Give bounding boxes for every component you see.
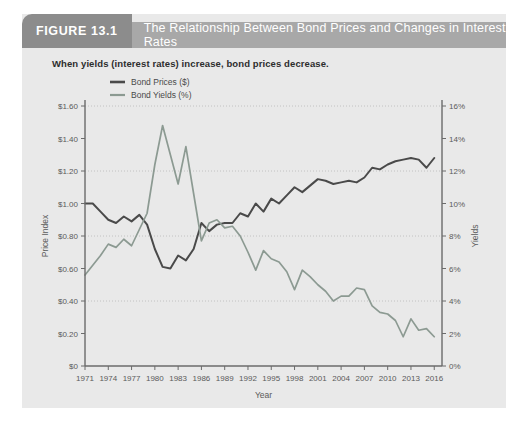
chart-axis-titles: YearPrice IndexYields [40,214,480,400]
figure-panel: FIGURE 13.1 The Relationship Between Bon… [22,14,506,408]
y-axis-title: Price Index [40,214,50,257]
y2-tick-label: 8% [449,232,461,241]
chart-axes [81,100,446,370]
chart-tick-labels: $0$0.20$0.40$0.60$0.80$1.00$1.20$1.40$1.… [58,102,465,383]
x-tick-label: 2013 [402,374,420,383]
y-tick-label: $1.60 [58,102,79,111]
y2-tick-label: 0% [449,362,461,371]
y2-tick-label: 2% [449,330,461,339]
y-tick-label: $0.60 [58,265,79,274]
y-tick-label: $0.40 [58,297,79,306]
bond-prices-yields-chart: $0$0.20$0.40$0.60$0.80$1.00$1.20$1.40$1.… [22,72,506,402]
y2-tick-label: 4% [449,297,461,306]
figure-title: The Relationship Between Bond Prices and… [132,22,506,48]
chart-plot-area: $0$0.20$0.40$0.60$0.80$1.00$1.20$1.40$1.… [22,72,506,402]
figure-number-label: FIGURE 13.1 [22,14,132,48]
x-tick-label: 2001 [309,374,327,383]
y2-tick-label: 16% [449,102,465,111]
y-tick-label: $0 [69,362,78,371]
y2-tick-label: 6% [449,265,461,274]
x-axis-title: Year [255,390,272,400]
y2-tick-label: 10% [449,200,465,209]
series-line-bond-prices [85,158,434,269]
x-tick-label: 2004 [332,374,350,383]
x-tick-label: 1989 [216,374,234,383]
x-tick-label: 2007 [355,374,373,383]
series-line-bond-yields [85,126,434,337]
y-tick-label: $1.00 [58,200,79,209]
figure-subtitle: When yields (interest rates) increase, b… [52,58,329,69]
x-tick-label: 1980 [146,374,164,383]
x-tick-label: 1974 [99,374,117,383]
x-tick-label: 2010 [379,374,397,383]
x-tick-label: 1977 [123,374,141,383]
x-tick-label: 1995 [262,374,280,383]
x-tick-label: 2016 [425,374,443,383]
x-tick-label: 1983 [169,374,187,383]
x-tick-label: 1986 [193,374,211,383]
legend-label-bond-yields: Bond Yields (%) [131,90,192,100]
legend-label-bond-prices: Bond Prices ($) [131,77,190,87]
y2-axis-title: Yields [470,225,480,248]
y2-tick-label: 14% [449,135,465,144]
y-tick-label: $1.20 [58,167,79,176]
chart-gridlines [85,106,442,301]
y-tick-label: $1.40 [58,135,79,144]
y-tick-label: $0.20 [58,330,79,339]
chart-series-group [85,126,434,337]
y2-tick-label: 12% [449,167,465,176]
x-tick-label: 1971 [76,374,94,383]
figure-header: FIGURE 13.1 The Relationship Between Bon… [22,22,506,48]
x-tick-label: 1998 [286,374,304,383]
y-tick-label: $0.80 [58,232,79,241]
x-tick-label: 1992 [239,374,257,383]
chart-legend: Bond Prices ($)Bond Yields (%) [110,77,192,100]
